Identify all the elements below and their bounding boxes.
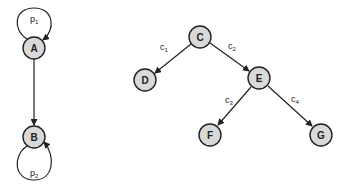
edge-e-to-f — [218, 87, 251, 125]
node-b: B — [23, 126, 45, 148]
edge-label-c2: c2 — [228, 41, 237, 52]
node-f: F — [199, 124, 221, 146]
svg-text:C: C — [196, 32, 203, 43]
svg-text:B: B — [30, 132, 37, 143]
edge-label-p1: p1 — [30, 14, 39, 25]
left-graph: p1 p2 A B — [17, 8, 51, 180]
svg-text:E: E — [256, 73, 263, 84]
node-c: C — [189, 26, 211, 48]
svg-text:G: G — [317, 130, 325, 141]
edge-label-c3: c3 — [225, 95, 234, 106]
edge-label-c1: c1 — [160, 42, 169, 53]
svg-text:A: A — [30, 43, 37, 54]
svg-text:D: D — [141, 75, 148, 86]
edge-e-to-g — [268, 86, 312, 126]
node-g: G — [310, 124, 332, 146]
node-a: A — [23, 37, 45, 59]
node-d: D — [134, 69, 156, 91]
edge-label-c4: c4 — [291, 94, 300, 105]
edge-label-p2: p2 — [30, 168, 39, 179]
diagram-canvas: p1 p2 A B c1 c2 c3 c4 C D — [0, 0, 354, 190]
right-graph: c1 c2 c3 c4 C D E F G — [134, 26, 332, 146]
node-e: E — [248, 67, 270, 89]
svg-text:F: F — [207, 130, 213, 141]
